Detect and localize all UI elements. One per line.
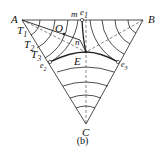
point-e1-label: e1 <box>80 8 88 20</box>
point-O-label: O <box>55 23 63 34</box>
triangle-outline <box>22 20 143 124</box>
point-m-label: m <box>71 10 78 19</box>
point-n-label: n <box>75 38 80 47</box>
point-e3-label: e3 <box>121 61 128 71</box>
isotherm-t3-label: T3 <box>31 49 41 63</box>
vertex-b-label: B <box>148 14 155 25</box>
point-E-label: E <box>74 56 81 67</box>
point-e2-label: e2 <box>40 62 47 72</box>
figure-caption: (b) <box>0 135 165 146</box>
